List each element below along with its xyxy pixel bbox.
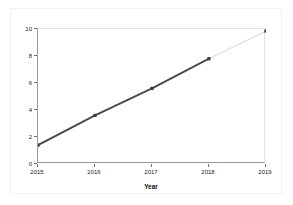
x-tick-label-2016: 2016: [87, 169, 100, 175]
x-tick-label-2017: 2017: [144, 169, 157, 175]
chart-figure: Earnings Per Share ($) 10 8 6 4 2 0 2015…: [0, 0, 293, 205]
x-tick-mark-2016: [94, 164, 95, 167]
x-tick-label-2015: 2015: [30, 169, 43, 175]
data-point-marker: [93, 114, 96, 117]
x-tick-mark-2017: [151, 164, 152, 167]
x-tick-mark-2015: [37, 164, 38, 167]
y-tick-label-10: 10: [2, 26, 32, 32]
series-svg: [38, 29, 266, 164]
data-point-marker: [264, 29, 266, 32]
x-axis-title: Year: [144, 183, 158, 190]
x-tick-label-2018: 2018: [201, 169, 214, 175]
y-tick-label-6: 6: [2, 80, 32, 86]
y-tick-label-4: 4: [2, 107, 32, 113]
data-point-marker: [150, 87, 153, 90]
data-point-marker: [38, 144, 40, 147]
x-tick-mark-2019: [265, 164, 266, 167]
x-tick-mark-2018: [208, 164, 209, 167]
y-tick-label-2: 2: [2, 134, 32, 140]
series-marker-group: [38, 29, 266, 146]
y-tick-label-0: 0: [2, 161, 32, 167]
series-segment: [152, 59, 209, 89]
plot-area: [37, 28, 265, 163]
data-point-marker: [207, 57, 210, 60]
x-tick-label-2019: 2019: [258, 169, 271, 175]
series-segment: [209, 31, 266, 59]
series-segment: [95, 88, 152, 115]
y-tick-label-8: 8: [2, 53, 32, 59]
series-segment: [38, 115, 95, 145]
